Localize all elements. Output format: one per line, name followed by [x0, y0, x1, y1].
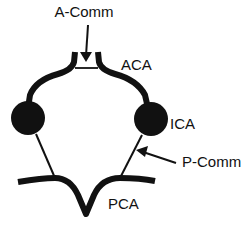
- a-comm-label: A-Comm: [54, 3, 113, 20]
- p-comm-label: P-Comm: [182, 153, 241, 170]
- right-p-comm-segment: [120, 135, 142, 178]
- ica-label: ICA: [170, 115, 195, 132]
- circle-of-willis-diagram: A-Comm ACA ICA P-Comm PCA: [0, 0, 251, 225]
- right-ica-node: [134, 102, 168, 136]
- p-comm-arrow: [136, 146, 176, 163]
- aca-label: ACA: [121, 56, 152, 73]
- left-aca-vessel: [28, 52, 75, 108]
- left-ica-node: [11, 101, 45, 135]
- pca-label: PCA: [108, 195, 139, 212]
- a-comm-arrow: [80, 25, 92, 62]
- left-p-comm-segment: [36, 134, 55, 178]
